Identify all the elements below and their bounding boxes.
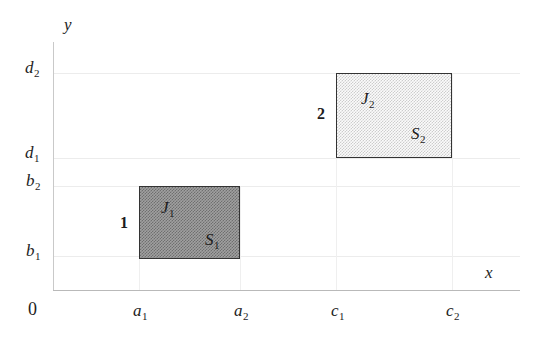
rectangle-2-area-base: S	[411, 124, 420, 143]
rectangle-1: J1 S1	[139, 186, 240, 259]
y-tick-label-b2: b2	[26, 172, 40, 189]
x-tick-base-a1: a	[133, 301, 142, 320]
x-tick-base-a2: a	[234, 301, 243, 320]
y-tick-base-b1: b	[26, 241, 35, 260]
x-tick-label-c1: c1	[331, 302, 344, 319]
x-axis-line	[53, 290, 520, 291]
gridline-b2	[53, 186, 520, 187]
x-tick-label-a2: a2	[234, 302, 248, 319]
x-tick-base-c2: c	[446, 301, 454, 320]
y-axis-label: y	[64, 16, 72, 33]
x-tick-sub-c1: 1	[339, 310, 345, 322]
rectangle-2-job-sub: 2	[369, 98, 375, 110]
rectangle-1-job-base: J	[161, 198, 169, 217]
x-tick-sub-a2: 2	[243, 310, 249, 322]
gridline-a2	[240, 186, 241, 290]
rectangle-2-job-label: J2	[361, 90, 374, 107]
rectangle-1-area-base: S	[205, 230, 214, 249]
x-tick-label-a1: a1	[133, 302, 147, 319]
x-tick-label-c2: c2	[446, 302, 459, 319]
y-tick-base-d1: d	[25, 143, 34, 162]
x-tick-base-c1: c	[331, 301, 339, 320]
y-tick-sub-b2: 2	[35, 180, 41, 192]
y-tick-label-b1: b1	[26, 242, 40, 259]
y-tick-base-b2: b	[26, 171, 35, 190]
rectangle-1-number-label: 1	[120, 215, 128, 231]
rectangle-2-job-base: J	[361, 89, 369, 108]
rectangle-1-job-label: J1	[161, 199, 174, 216]
figure-canvas: y x 0 d2 d1 b2 b1 a1 a2 c1 c2 J1 S1 1 J2	[0, 0, 546, 343]
rectangle-1-job-sub: 1	[169, 207, 175, 219]
rectangle-2: J2 S2	[336, 73, 452, 158]
y-axis-line	[53, 42, 54, 291]
y-tick-label-d2: d2	[25, 59, 39, 76]
rectangle-1-area-sub: 1	[214, 239, 220, 251]
rectangle-2-number-label: 2	[317, 106, 325, 122]
gridline-d1	[53, 158, 520, 159]
rectangle-2-area-label: S2	[411, 125, 425, 142]
y-tick-sub-b1: 1	[35, 250, 41, 262]
y-tick-base-d2: d	[25, 58, 34, 77]
origin-label: 0	[28, 300, 37, 318]
y-tick-sub-d2: 2	[34, 67, 40, 79]
x-tick-sub-c2: 2	[454, 310, 460, 322]
y-tick-sub-d1: 1	[34, 152, 40, 164]
y-tick-label-d1: d1	[25, 144, 39, 161]
rectangle-1-area-label: S1	[205, 231, 219, 248]
rectangle-2-area-sub: 2	[420, 133, 426, 145]
gridline-b1	[53, 256, 520, 257]
x-axis-label: x	[485, 264, 493, 281]
x-tick-sub-a1: 1	[142, 310, 148, 322]
gridline-c2	[452, 73, 453, 290]
